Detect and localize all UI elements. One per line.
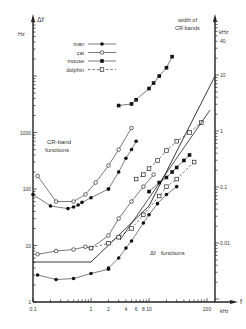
right-axis-unit: kHz [219,29,229,35]
x-axis-title: f [240,298,242,305]
x-tick-label: 100 [203,306,212,312]
x-tick-label: 4 [125,306,128,312]
cr-band-annotation-2: functions [45,147,69,153]
legend: mancatmousedolphin [66,41,116,73]
right-axis-title-2: CR-bands [175,25,200,31]
left-tick-label: 100 [23,186,32,192]
plot-area: 11010010000.010.1110400.11246810100 manc… [0,0,246,329]
right-tick-label: 40 [220,38,226,44]
x-tick-label: 6 [135,306,138,312]
left-axis-arrow [31,14,35,22]
x-tick-label: 1 [90,306,93,312]
right-axis-arrow [213,14,217,22]
axis-ticks: 11010010000.010.1110400.11246810100 [20,22,230,312]
df-annotation: Δf functions [150,250,185,256]
series-dolphin-cr-band [134,121,203,181]
left-tick-label: 1000 [20,130,31,136]
x-axis-unit: kHz [220,308,229,314]
right-tick-label: 10 [220,72,226,78]
x-tick-label: 10 [146,306,152,312]
left-tick-label: 10 [25,243,31,249]
left-axis-title: Δf [37,16,44,23]
series-man-f [36,267,110,281]
series-man-f-high- [107,185,179,270]
legend-marker-mouse-icon [100,59,104,63]
legend-marker-cat-icon [100,51,104,55]
legend-marker-dolphin-icon [100,68,104,72]
legend-label-dolphin: dolphin [66,67,84,73]
x-tick-label: 8 [142,306,145,312]
series-mouse-cr-band [117,55,174,107]
x-axis-arrow [230,300,238,304]
series-man-cr-band-high- [107,139,138,190]
right-tick-label: 0.01 [220,240,230,246]
legend-label-mouse: mouse [67,58,84,64]
left-axis-unit: Hz [18,31,25,37]
series-cat-cr-band [36,126,134,203]
legend-label-cat: cat [77,50,85,56]
series-reference-line-2 [120,110,210,240]
legend-label-man: man [73,41,84,47]
chart: 11010010000.010.1110400.11246810100 manc… [0,0,246,329]
right-tick-label: 1 [220,128,223,134]
cr-band-annotation-1: CR-band [47,139,71,145]
x-tick-label: 2 [107,306,110,312]
right-tick-label: 0.1 [220,184,227,190]
series-layer [31,55,215,281]
x-tick-label: 0.1 [30,306,37,312]
right-axis-title-1: width of [177,17,197,23]
legend-marker-man-icon [100,42,104,46]
left-tick-label: 1 [28,299,31,305]
series-man-cr-band [31,187,110,210]
